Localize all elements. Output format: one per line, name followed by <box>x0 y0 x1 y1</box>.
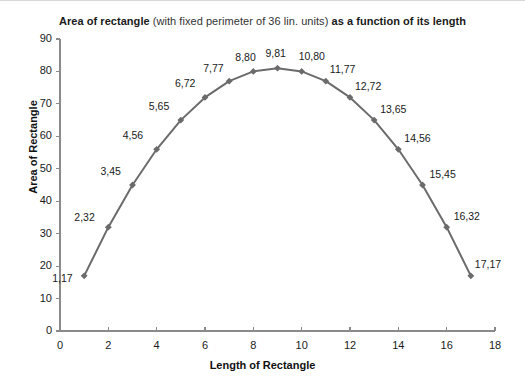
x-axis-tick-label: 10 <box>288 339 316 351</box>
data-series <box>81 65 474 279</box>
data-point-label: 16,32 <box>454 210 480 222</box>
data-point-label: 15,45 <box>430 168 456 180</box>
data-point-label: 9,81 <box>266 47 286 59</box>
data-point-label: 13,65 <box>380 103 406 115</box>
x-axis-tick-label: 12 <box>336 339 364 351</box>
y-axis-tick-label: 10 <box>24 292 52 304</box>
data-point-marker[interactable] <box>298 68 305 75</box>
y-axis-tick-label: 20 <box>24 259 52 271</box>
data-point-label: 2,32 <box>74 211 94 223</box>
x-axis-tick-label: 4 <box>143 339 171 351</box>
series-line <box>84 68 471 276</box>
data-point-marker[interactable] <box>81 272 88 279</box>
x-axis-tick-label: 2 <box>94 339 122 351</box>
x-axis-title: Length of Rectangle <box>0 359 525 371</box>
x-axis-tick-label: 0 <box>46 339 74 351</box>
data-point-marker[interactable] <box>250 68 257 75</box>
y-axis-tick-label: 0 <box>24 324 52 336</box>
data-point-label: 3,45 <box>101 165 121 177</box>
data-point-label: 4,56 <box>123 129 143 141</box>
x-axis-tick-label: 6 <box>191 339 219 351</box>
data-point-label: 1,17 <box>52 272 72 284</box>
x-axis-tick-label: 18 <box>481 339 509 351</box>
data-point-label: 6,72 <box>175 77 195 89</box>
y-axis-tick-label: 30 <box>24 227 52 239</box>
data-point-label: 12,72 <box>355 80 381 92</box>
y-axis-tick-label: 90 <box>24 32 52 44</box>
x-axis-tick-label: 14 <box>384 339 412 351</box>
data-point-label: 8,80 <box>235 51 255 63</box>
chart-container: Area of rectangle (with fixed perimeter … <box>0 0 525 383</box>
data-point-marker[interactable] <box>467 272 474 279</box>
plot-area <box>0 1 525 383</box>
y-axis-title: Area of Rectangle <box>27 92 39 202</box>
data-point-label: 5,65 <box>149 100 169 112</box>
data-point-label: 17,17 <box>475 258 501 270</box>
x-axis-tick-label: 16 <box>433 339 461 351</box>
data-point-label: 14,56 <box>404 132 430 144</box>
axes <box>56 39 495 331</box>
data-point-label: 10,80 <box>299 50 325 62</box>
data-point-label: 11,77 <box>330 63 356 75</box>
x-axis-tick-label: 8 <box>239 339 267 351</box>
y-axis-tick-label: 80 <box>24 64 52 76</box>
data-point-label: 7,77 <box>203 62 223 74</box>
data-point-marker[interactable] <box>274 65 281 72</box>
